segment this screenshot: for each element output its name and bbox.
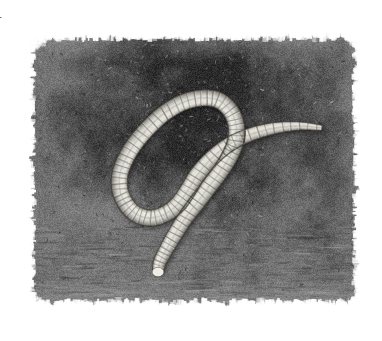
nematode-micrograph-image xyxy=(22,28,366,312)
figure-label: 1 xyxy=(0,3,8,23)
micrograph-panel xyxy=(22,28,366,312)
